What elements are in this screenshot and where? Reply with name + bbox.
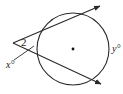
angle-label: 2	[21, 36, 27, 48]
secant-diagram: 2 y° x°	[0, 0, 123, 94]
center-point	[72, 48, 75, 51]
lower-secant-ray	[13, 43, 101, 84]
near-arc-label: x°	[5, 59, 14, 70]
far-arc-label: y°	[111, 43, 120, 54]
